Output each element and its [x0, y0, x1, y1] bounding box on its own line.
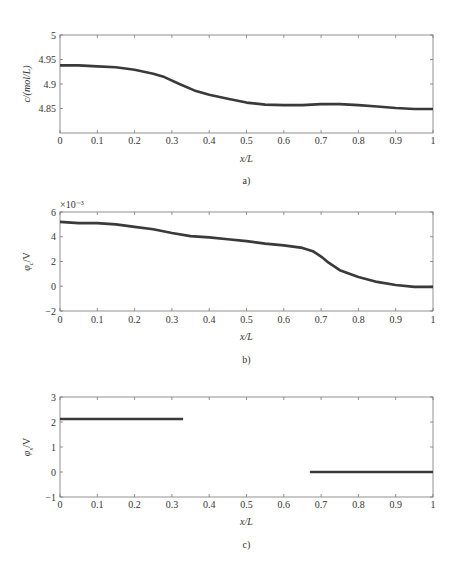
panel-caption: b) [242, 354, 250, 366]
x-tick-label: 0.1 [91, 135, 104, 146]
x-tick-label: 0 [58, 499, 63, 510]
plot-frame [60, 35, 433, 133]
x-tick-label: 1 [431, 135, 436, 146]
x-tick-label: 0.7 [315, 499, 328, 510]
y-tick-label: 5 [51, 30, 56, 41]
x-tick-label: 0.3 [166, 499, 179, 510]
x-tick-label: 0.2 [128, 135, 141, 146]
x-tick-label: 1 [431, 314, 436, 325]
y-tick-label: 0 [51, 467, 56, 478]
data-series-line [60, 222, 433, 287]
y-tick-label: −1 [45, 492, 56, 503]
x-tick-label: 0 [58, 314, 63, 325]
x-tick-label: 0.9 [389, 499, 402, 510]
x-tick-label: 0.5 [240, 135, 253, 146]
x-tick-label: 0 [58, 135, 63, 146]
x-tick-label: 0.2 [128, 499, 141, 510]
x-tick-label: 0.4 [203, 499, 216, 510]
y-axis-label: c/(mol/L) [21, 65, 33, 103]
x-tick-label: 0.5 [240, 314, 253, 325]
y-axis-label: φs/V [21, 437, 35, 456]
x-tick-label: 1 [431, 499, 436, 510]
y-tick-label: −2 [45, 306, 56, 317]
x-tick-label: 0.6 [278, 135, 291, 146]
y-tick-label: 4.95 [39, 54, 57, 65]
x-tick-label: 0.4 [203, 135, 216, 146]
x-tick-label: 0.1 [91, 499, 104, 510]
y-tick-label: 0 [51, 281, 56, 292]
x-tick-label: 0.9 [389, 314, 402, 325]
chart-a-concentration: 00.10.20.30.40.50.60.70.80.914.854.94.95… [21, 30, 436, 188]
data-series-line [60, 65, 433, 109]
y-tick-label: 4 [51, 231, 56, 242]
y-axis-label: φc/V [21, 251, 35, 270]
chart-c-solid-potential: 00.10.20.30.40.50.60.70.80.91−10123x/Lφs… [21, 392, 436, 552]
panel-caption: c) [243, 539, 251, 551]
y-tick-label: 2 [51, 256, 56, 267]
x-tick-label: 0.8 [352, 135, 365, 146]
y-tick-label: 3 [51, 392, 56, 403]
plot-frame [60, 397, 433, 497]
figure: 00.10.20.30.40.50.60.70.80.914.854.94.95… [0, 0, 459, 572]
x-axis-label: x/L [239, 153, 253, 164]
y-tick-label: 2 [51, 417, 56, 428]
y-multiplier: ×10⁻³ [60, 199, 84, 210]
x-tick-label: 0.7 [315, 135, 328, 146]
x-tick-label: 0.3 [166, 314, 179, 325]
y-tick-label: 6 [51, 207, 56, 218]
y-tick-label: 4.9 [44, 79, 57, 90]
y-tick-label: 4.85 [39, 103, 57, 114]
x-tick-label: 0.9 [389, 135, 402, 146]
chart-b-electrolyte-potential: 00.10.20.30.40.50.60.70.80.91−20246×10⁻³… [21, 199, 436, 366]
y-tick-label: 1 [51, 442, 56, 453]
x-tick-label: 0.7 [315, 314, 328, 325]
x-tick-label: 0.6 [278, 314, 291, 325]
x-axis-label: x/L [239, 331, 253, 342]
plot-frame [60, 212, 433, 311]
x-tick-label: 0.2 [128, 314, 141, 325]
x-axis-label: x/L [239, 516, 253, 527]
x-tick-label: 0.8 [352, 499, 365, 510]
x-tick-label: 0.1 [91, 314, 104, 325]
panel-caption: a) [243, 175, 251, 187]
x-tick-label: 0.6 [278, 499, 291, 510]
x-tick-label: 0.3 [166, 135, 179, 146]
x-tick-label: 0.4 [203, 314, 216, 325]
x-tick-label: 0.5 [240, 499, 253, 510]
x-tick-label: 0.8 [352, 314, 365, 325]
